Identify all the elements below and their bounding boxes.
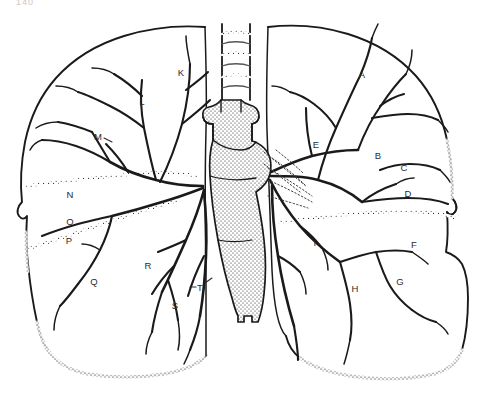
right-horizontal-fissure-dotted bbox=[280, 211, 455, 222]
right-bronchial-branches bbox=[278, 38, 448, 360]
anatomy-label-h: H bbox=[351, 283, 358, 294]
anatomy-label-c: C bbox=[400, 162, 407, 173]
anatomy-label-s: S bbox=[172, 300, 179, 311]
anatomy-label-r: R bbox=[144, 260, 151, 271]
anatomical-figure: 140 bbox=[0, 0, 488, 394]
anatomy-label-g: G bbox=[396, 276, 404, 287]
anatomy-label-d: D bbox=[404, 188, 411, 199]
anatomy-label-n: N bbox=[66, 189, 73, 200]
anatomy-label-i: I bbox=[314, 237, 317, 248]
anatomy-label-m: M bbox=[94, 131, 102, 142]
anatomy-label-p: P bbox=[66, 235, 73, 246]
anatomy-label-e: E bbox=[313, 139, 320, 150]
anatomy-label-b: B bbox=[375, 150, 382, 161]
anatomy-label-t: T bbox=[197, 282, 203, 293]
anatomy-label-a: A bbox=[359, 69, 366, 80]
anatomy-label-l: L bbox=[139, 96, 144, 107]
left-bronchial-tree bbox=[110, 162, 206, 316]
anatomy-label-o: O bbox=[66, 216, 74, 227]
left-bronchial-branches bbox=[42, 64, 210, 350]
anatomy-label-k: K bbox=[178, 67, 185, 78]
anatomy-label-f: F bbox=[411, 239, 417, 250]
anatomy-label-q: Q bbox=[90, 276, 98, 287]
stippled-mediastinal-column bbox=[203, 100, 271, 322]
trachea-with-cartilage-rings bbox=[222, 24, 250, 100]
